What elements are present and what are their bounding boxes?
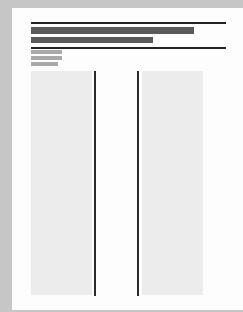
right-column-block [142, 71, 203, 295]
header-top-rule [31, 22, 226, 24]
left-column-block [31, 71, 92, 295]
meta-line-2 [31, 56, 62, 60]
meta-line-3 [31, 62, 58, 66]
left-column-divider [94, 71, 96, 296]
document-type: page-layout-thumbnail [12, 8, 13, 9]
title-line-2 [31, 37, 153, 43]
header-bottom-rule [31, 47, 226, 49]
right-column-divider [137, 71, 139, 296]
document-page: page-layout-thumbnail [12, 8, 243, 310]
title-line-1 [31, 27, 194, 34]
meta-line-1 [31, 50, 62, 54]
